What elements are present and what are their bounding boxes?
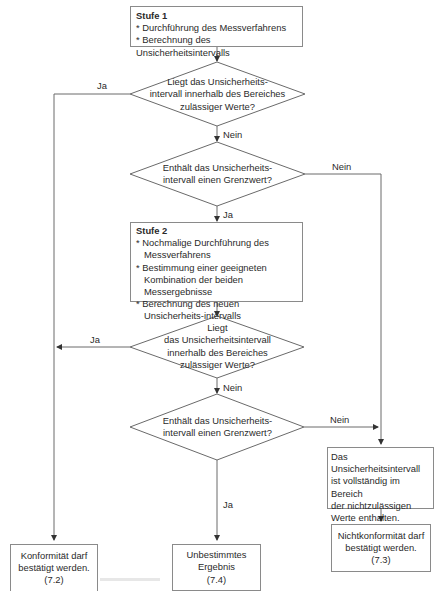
decision-3-no-label: Nein [223, 382, 242, 393]
outcome-nonconformity-box: Nichtkonformität darf bestätigt werden. … [331, 524, 431, 572]
decision-1-yes-label: Ja [97, 80, 107, 91]
stufe-1-item: * Berechnung des Unsicherheitsintervalls [136, 34, 297, 58]
outcome-line: Konformität darf [11, 550, 97, 562]
outcome-line: bestätigt werden. [11, 562, 97, 574]
decision-4-yes-label: Ja [223, 499, 233, 510]
outcome-line: (7.2) [11, 574, 97, 586]
stufe-2-item: * Bestimmung einer geeigneten Kombinatio… [136, 262, 297, 299]
decision-1-no-label: Nein [223, 129, 242, 140]
decision-3-line: Liegt [140, 322, 295, 334]
decision-3-line: das Unsicherheitsintervall [140, 334, 295, 346]
nonconformity-condition-box: Das Unsicherheitsintervall ist vollständ… [327, 447, 434, 509]
outcome-conformity-box: Konformität darf bestätigt werden. (7.2) [10, 544, 98, 591]
decision-3-text: Liegt das Unsicherheitsintervall innerha… [140, 322, 295, 372]
outcome-line: Ergebnis [173, 561, 260, 573]
figure-caption-clipped [100, 578, 220, 588]
decision-4-line: intervall einen Grenzwert? [140, 427, 295, 439]
stufe-2-item: * Nochmalige Durchführung des Messverfah… [136, 237, 297, 261]
decision-4-line: Enthält das Unsicherheits- [140, 415, 295, 427]
decision-1-line: zulässiger Werte? [140, 101, 295, 113]
outcome-line: Nichtkonformität darf [332, 530, 430, 542]
decision-1-line: Liegt das Unsicherheits- [140, 76, 295, 88]
stufe-2-title: Stufe 2 [136, 225, 297, 237]
condition-line: Werte enthalten. [331, 512, 430, 524]
stufe-1-title: Stufe 1 [136, 10, 297, 22]
decision-2-line: Enthält das Unsicherheits- [140, 162, 295, 174]
decision-4-no-label: Nein [330, 414, 349, 425]
decision-1-line: intervall innerhalb des Bereiches [140, 88, 295, 100]
stufe-1-item: * Durchführung des Messverfahrens [136, 22, 297, 34]
outcome-line: bestätigt werden. [332, 542, 430, 554]
decision-4-text: Enthält das Unsicherheits- intervall ein… [140, 415, 295, 440]
stufe-2-item: * Berechnung des neuen Unsicherheits-int… [136, 298, 297, 322]
decision-3-line: innerhalb des Bereiches [140, 347, 295, 359]
condition-line: ist vollständig im Bereich [331, 475, 430, 499]
outcome-line: (7.3) [332, 554, 430, 566]
decision-2-line: intervall einen Grenzwert? [140, 174, 295, 186]
outcome-line: Unbestimmtes [173, 549, 260, 561]
decision-2-no-label: Nein [332, 161, 351, 172]
stufe-1-box: Stufe 1 * Durchführung des Messverfahren… [130, 6, 303, 47]
decision-2-yes-label: Ja [223, 209, 233, 220]
condition-line: Das Unsicherheitsintervall [331, 451, 430, 475]
decision-1-text: Liegt das Unsicherheits- intervall inner… [140, 76, 295, 113]
stufe-2-box: Stufe 2 * Nochmalige Durchführung des Me… [130, 222, 303, 302]
decision-2-text: Enthält das Unsicherheits- intervall ein… [140, 162, 295, 187]
condition-line: der nichtzulässigen [331, 500, 430, 512]
decision-3-yes-label: Ja [90, 334, 100, 345]
decision-3-line: zulässiger Werte? [140, 359, 295, 371]
